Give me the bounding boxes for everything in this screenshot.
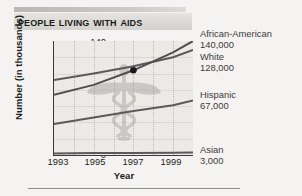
bottom-divider [28,188,240,189]
series-line-white [54,50,193,80]
series-name-asian: Asian [200,144,223,155]
series-line-asian [54,153,193,154]
series-label-white: White 128,000 [200,51,234,74]
series-value-asian: 3,000 [200,155,223,166]
series-name-hispanic: Hispanic [200,89,236,100]
x-tick-1999: 1999 [151,157,191,166]
chart-title-text: People Living with AIDS [14,15,142,28]
series-line-hispanic [54,100,193,124]
series-name-african-american: African-American [200,28,272,39]
series-name-white: White [200,51,234,62]
x-tick-1995: 1995 [75,157,115,166]
y-axis-title: Number (in thousands) [13,3,24,133]
chart-title: People Living with AIDS [14,13,192,30]
data-lines [54,41,193,155]
series-label-asian: Asian 3,000 [200,144,223,167]
series-label-african-american: African-American 140,000 [200,28,272,51]
x-tick-1993: 1993 [38,157,78,166]
plot-area [53,41,193,156]
data-point-marker [130,67,137,74]
x-tick-1997: 1997 [113,157,153,166]
series-value-hispanic: 67,000 [200,100,236,111]
x-axis-title: Year [48,170,200,181]
series-label-hispanic: Hispanic 67,000 [200,89,236,112]
series-value-african-american: 140,000 [200,39,272,50]
title-accent-bar [14,7,186,12]
chart-figure: People Living with AIDS Number (in thous… [0,0,302,196]
series-value-white: 128,000 [200,62,234,73]
